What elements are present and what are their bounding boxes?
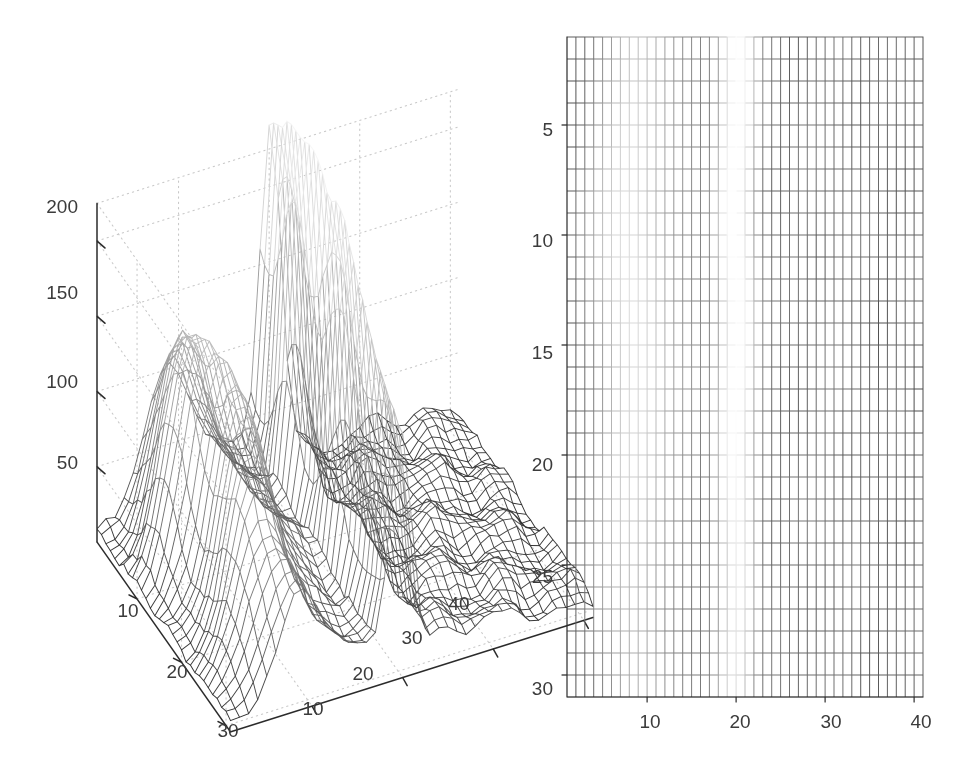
right-y-tick-3: 20	[532, 455, 553, 474]
left-z-tick-0: 200	[46, 197, 78, 216]
left-x-tick-3: 40	[448, 594, 469, 613]
right-y-tick-1: 10	[532, 231, 553, 250]
right-x-tick-2: 30	[820, 712, 841, 731]
left-z-tick-3: 50	[57, 453, 78, 472]
right-y-tick-0: 5	[542, 120, 553, 139]
left-y-tick-0: 10	[117, 601, 138, 620]
right-y-tick-2: 15	[532, 343, 553, 362]
right-x-tick-0: 10	[639, 712, 660, 731]
figure-root: 2001501005010203010203040510152025301020…	[0, 0, 962, 767]
left-x-tick-2: 30	[401, 628, 422, 647]
right-y-tick-5: 30	[532, 679, 553, 698]
left-y-tick-2: 30	[217, 721, 238, 740]
right-x-tick-1: 20	[729, 712, 750, 731]
left-x-tick-1: 20	[352, 664, 373, 683]
left-x-tick-0: 10	[302, 699, 323, 718]
right-y-tick-4: 25	[532, 567, 553, 586]
left-z-tick-1: 150	[46, 283, 78, 302]
left-z-tick-2: 100	[46, 372, 78, 391]
right-x-tick-3: 40	[910, 712, 931, 731]
left-y-tick-1: 20	[166, 662, 187, 681]
plot-canvas	[0, 0, 962, 767]
